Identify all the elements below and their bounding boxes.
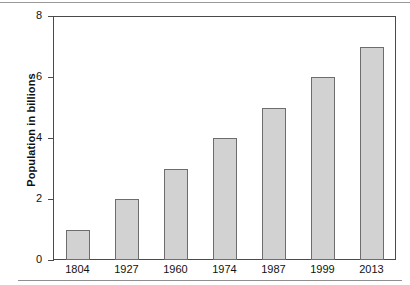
x-tick-label-2013: 2013 bbox=[349, 263, 395, 275]
y-tick-label-8: 8 bbox=[22, 9, 42, 21]
y-tick-label-2: 2 bbox=[22, 192, 42, 204]
page-rule-top bbox=[0, 2, 410, 3]
bar-1974 bbox=[213, 138, 237, 260]
bar-series bbox=[53, 16, 396, 260]
y-tick-label-0: 0 bbox=[22, 253, 42, 265]
bar-1960 bbox=[164, 169, 188, 261]
x-tick-label-1987: 1987 bbox=[251, 263, 297, 275]
bar-1927 bbox=[115, 199, 139, 260]
population-bar-chart: Population in billions 02468 18041927196… bbox=[0, 0, 410, 285]
y-tick-label-6: 6 bbox=[22, 70, 42, 82]
y-tick-label-4: 4 bbox=[22, 131, 42, 143]
bar-2013 bbox=[360, 47, 384, 261]
y-tick-mark-4 bbox=[48, 138, 54, 139]
y-tick-mark-2 bbox=[48, 199, 54, 200]
x-tick-label-1960: 1960 bbox=[153, 263, 199, 275]
bar-1999 bbox=[311, 77, 335, 260]
y-tick-mark-6 bbox=[48, 77, 54, 78]
x-tick-label-1974: 1974 bbox=[202, 263, 248, 275]
page-rule-bottom bbox=[18, 280, 402, 281]
x-tick-label-1804: 1804 bbox=[55, 263, 101, 275]
x-tick-label-1999: 1999 bbox=[300, 263, 346, 275]
y-tick-mark-8 bbox=[48, 16, 54, 17]
x-tick-label-1927: 1927 bbox=[104, 263, 150, 275]
bar-1804 bbox=[66, 230, 90, 261]
bar-1987 bbox=[262, 108, 286, 261]
y-tick-mark-0 bbox=[48, 260, 54, 261]
